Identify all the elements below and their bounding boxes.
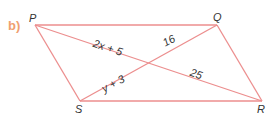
side-sp <box>35 25 80 101</box>
vertex-label-p: P <box>29 13 36 24</box>
vertex-label-s: S <box>75 104 82 115</box>
side-qr <box>217 25 262 101</box>
vertex-label-r: R <box>257 104 265 115</box>
vertex-label-q: Q <box>213 12 222 23</box>
diagonal-qs <box>80 25 217 101</box>
parallelogram-diagram <box>0 0 269 117</box>
